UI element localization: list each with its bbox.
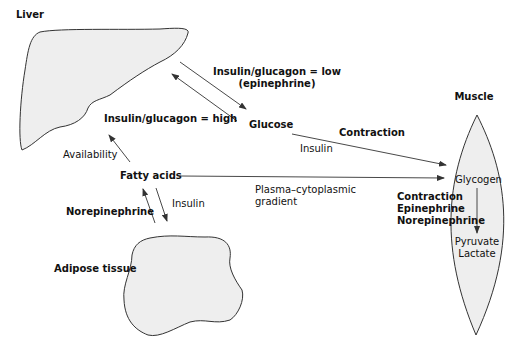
arrow-fa-to-muscle xyxy=(180,176,444,178)
label-availability: Availability xyxy=(63,149,118,161)
label-glycogenolysis-regulators: Contraction Epinephrine Norepinephrine xyxy=(397,191,485,227)
liver-label: Liver xyxy=(16,9,44,21)
label-contraction: Contraction xyxy=(339,127,405,139)
glucose-label: Glucose xyxy=(249,119,293,131)
label-insulin-glucagon-high: Insulin/glucagon = high xyxy=(104,113,237,125)
label-norepinephrine: Norepinephrine xyxy=(66,206,154,218)
label-insulin-glucose: Insulin xyxy=(300,143,333,155)
glycogen-label: Glycogen xyxy=(455,174,502,186)
liver-shape xyxy=(20,28,188,150)
label-plasma-gradient: Plasma–cytoplasmic gradient xyxy=(255,184,356,208)
diagram-canvas xyxy=(0,0,521,355)
adipose-shape xyxy=(124,236,243,336)
pyruvate-lactate-label: Pyruvate Lactate xyxy=(452,236,502,260)
adipose-label: Adipose tissue xyxy=(54,263,137,275)
fatty-acids-label: Fatty acids xyxy=(120,170,182,182)
arrow-fa-to-adipose xyxy=(156,188,167,221)
label-insulin-glucagon-low: Insulin/glucagon = low (epinephrine) xyxy=(207,66,347,90)
label-insulin-fa: Insulin xyxy=(172,198,205,210)
muscle-label: Muscle xyxy=(454,91,493,103)
